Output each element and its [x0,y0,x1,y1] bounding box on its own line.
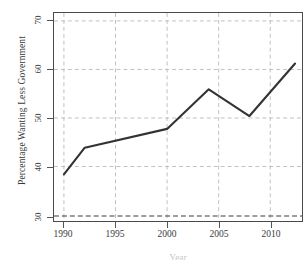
x-tick-mark-2005 [219,222,220,228]
x-tick-mark-1990 [63,222,64,228]
x-tick-label-2005: 2005 [199,229,239,239]
x-tick-mark-2010 [271,222,272,228]
x-tick-mark-2000 [167,222,168,228]
y-tick-label-30: 30 [28,210,46,224]
y-tick-label-50: 50 [28,111,46,125]
x-tick-label-2010: 2010 [251,229,291,239]
x-tick-label-2000: 2000 [147,229,187,239]
x-tick-mark-1995 [115,222,116,228]
plot-area [53,12,303,222]
y-tick-label-40: 40 [28,160,46,174]
x-axis-title: Year [53,253,303,260]
y-tick-label-60: 60 [28,62,46,76]
x-tick-label-1995: 1995 [95,229,135,239]
y-tick-label-70: 70 [28,13,46,27]
data-series-line [54,13,302,221]
chart-figure: Percentage Wanting Less Government 70 60… [0,0,308,260]
x-tick-label-1990: 1990 [43,229,83,239]
